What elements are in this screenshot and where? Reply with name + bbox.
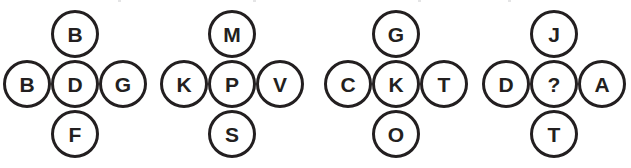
cluster-4-node-bottom: T — [530, 110, 578, 158]
cluster-3-node-center: K — [372, 60, 420, 108]
cluster-2-node-bottom: S — [208, 110, 256, 158]
cluster-4-label-left: D — [498, 74, 513, 95]
cluster-3-label-bottom: O — [388, 124, 404, 145]
cluster-1-node-center: D — [51, 60, 99, 108]
cluster-2-label-left: K — [176, 74, 191, 95]
cluster-1-label-left: B — [19, 74, 34, 95]
cluster-3-label-left: C — [340, 74, 355, 95]
cluster-3-label-center: K — [388, 74, 403, 95]
cluster-1-label-right: G — [115, 74, 131, 95]
cluster-3-node-right: T — [420, 60, 468, 108]
cluster-1-label-bottom: F — [69, 124, 82, 145]
cluster-3-node-left: C — [324, 60, 372, 108]
cluster-4-label-right: A — [594, 74, 609, 95]
letter-cluster-1: B B G F D — [0, 0, 160, 168]
cluster-4-node-right: A — [578, 60, 626, 108]
cluster-1-node-top: B — [51, 10, 99, 58]
cluster-2-node-center: P — [208, 60, 256, 108]
cluster-1-node-right: G — [99, 60, 147, 108]
cluster-3-node-bottom: O — [372, 110, 420, 158]
cluster-2-label-top: M — [223, 24, 241, 45]
cluster-4-node-top: J — [530, 10, 578, 58]
letter-cluster-4: J D A T ? — [479, 0, 631, 168]
letter-cluster-3: G C T O K — [321, 0, 481, 168]
cluster-3-node-top: G — [372, 10, 420, 58]
cluster-2-label-right: V — [273, 74, 287, 95]
cluster-4-node-left: D — [482, 60, 530, 108]
cluster-4-label-bottom: T — [548, 124, 561, 145]
cluster-4-label-center-question-mark: ? — [548, 74, 561, 95]
cluster-2-label-bottom: S — [225, 124, 239, 145]
cluster-1-node-left: B — [3, 60, 51, 108]
cluster-2-label-center: P — [225, 74, 239, 95]
cluster-1-label-center: D — [67, 74, 82, 95]
cluster-1-label-top: B — [67, 24, 82, 45]
puzzle-canvas: B B G F D M K V S P — [0, 0, 631, 168]
cluster-2-node-right: V — [256, 60, 304, 108]
cluster-4-label-top: J — [548, 24, 560, 45]
cluster-2-node-top: M — [208, 10, 256, 58]
letter-cluster-2: M K V S P — [157, 0, 317, 168]
cluster-4-node-center-missing: ? — [530, 60, 578, 108]
cluster-3-label-top: G — [388, 24, 404, 45]
cluster-3-label-right: T — [438, 74, 451, 95]
cluster-2-node-left: K — [160, 60, 208, 108]
cluster-1-node-bottom: F — [51, 110, 99, 158]
